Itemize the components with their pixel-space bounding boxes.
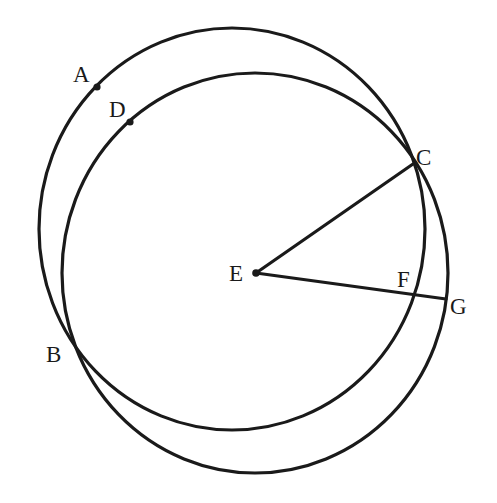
point-e-dot — [252, 269, 260, 277]
label-e: E — [229, 261, 243, 286]
label-g: G — [450, 294, 467, 319]
label-b: B — [46, 342, 61, 367]
diagram-canvas: A D C E F G B — [0, 0, 497, 503]
label-f: F — [397, 267, 410, 292]
point-d-dot — [126, 118, 133, 125]
point-a-dot — [93, 83, 100, 90]
label-c: C — [416, 145, 431, 170]
label-a: A — [73, 62, 90, 87]
label-d: D — [109, 97, 126, 122]
geometry-diagram: A D C E F G B — [0, 0, 497, 503]
segment-ec — [256, 164, 413, 273]
